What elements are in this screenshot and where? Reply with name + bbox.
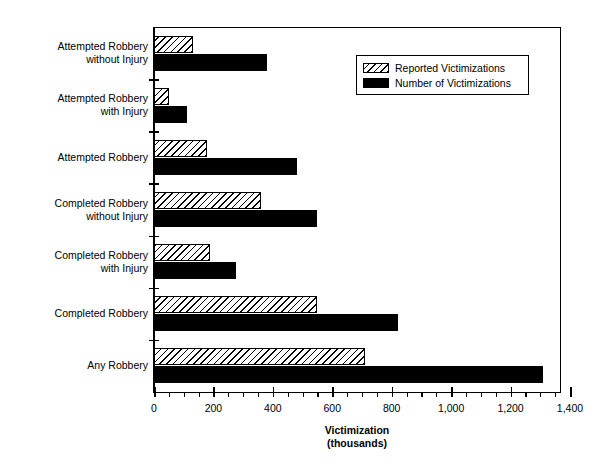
legend-label-number: Number of Victimizations	[395, 77, 511, 89]
x-tick-label-1200: 1,200	[481, 402, 541, 414]
x-minor-tick-450	[288, 392, 289, 397]
bar-reported-0	[154, 36, 193, 53]
x-minor-tick-1350	[555, 392, 556, 397]
chart-legend: Reported Victimizations Number of Victim…	[356, 55, 529, 95]
x-minor-tick-100	[184, 392, 185, 397]
x-minor-tick-50	[169, 392, 170, 397]
category-label-5: Completed Robbery	[8, 307, 148, 320]
x-tick-label-1000: 1,000	[421, 402, 481, 414]
bar-reported-1	[154, 88, 169, 105]
x-minor-tick-950	[436, 392, 437, 397]
x-tick-label-200: 200	[183, 402, 243, 414]
x-major-tick-800	[392, 387, 394, 397]
x-major-tick-200	[213, 387, 215, 397]
bar-number-4	[154, 262, 236, 279]
bar-reported-5	[154, 296, 317, 313]
category-label-6: Any Robbery	[8, 359, 148, 372]
legend-item-number: Number of Victimizations	[363, 75, 521, 90]
x-minor-tick-350	[258, 392, 259, 397]
x-major-tick-600	[332, 387, 334, 397]
category-label-1: Attempted Robbery with Injury	[8, 92, 148, 118]
category-label-3: Completed Robbery without Injury	[8, 197, 148, 223]
x-tick-label-800: 800	[362, 402, 422, 414]
x-minor-tick-1050	[466, 392, 467, 397]
y-axis-category-tick-5	[149, 288, 159, 290]
x-minor-tick-1250	[525, 392, 526, 397]
legend-swatch-hatched-icon	[363, 63, 389, 73]
x-minor-tick-550	[317, 392, 318, 397]
x-minor-tick-750	[377, 392, 378, 397]
x-major-tick-1200	[511, 387, 513, 397]
x-tick-label-600: 600	[302, 402, 362, 414]
bar-number-1	[154, 106, 187, 123]
y-axis-category-tick-6	[149, 340, 159, 342]
x-tick-label-400: 400	[243, 402, 303, 414]
category-label-4: Completed Robbery with Injury	[8, 249, 148, 275]
legend-item-reported: Reported Victimizations	[363, 60, 521, 75]
x-minor-tick-650	[347, 392, 348, 397]
y-axis-category-tick-3	[149, 183, 159, 185]
horizontal-bar-chart: Attempted Robbery without InjuryAttempte…	[0, 0, 603, 464]
x-major-tick-400	[273, 387, 275, 397]
y-axis-category-tick-2	[149, 131, 159, 133]
bar-number-2	[154, 158, 297, 175]
x-major-tick-1000	[451, 387, 453, 397]
legend-swatch-solid-icon	[363, 78, 389, 88]
x-minor-tick-300	[243, 392, 244, 397]
x-minor-tick-250	[228, 392, 229, 397]
bar-reported-4	[154, 244, 210, 261]
category-label-0: Attempted Robbery without Injury	[8, 40, 148, 66]
x-minor-tick-1100	[481, 392, 482, 397]
x-minor-tick-150	[199, 392, 200, 397]
legend-label-reported: Reported Victimizations	[395, 62, 505, 74]
x-minor-tick-850	[407, 392, 408, 397]
y-axis-category-tick-1	[149, 79, 159, 81]
x-tick-label-1400: 1,400	[540, 402, 600, 414]
bar-number-5	[154, 314, 398, 331]
y-axis-category-tick-4	[149, 236, 159, 238]
bar-number-6	[154, 366, 543, 383]
bar-number-3	[154, 210, 317, 227]
x-minor-tick-1300	[540, 392, 541, 397]
bar-reported-2	[154, 140, 207, 157]
x-minor-tick-500	[303, 392, 304, 397]
x-major-tick-0	[154, 387, 156, 397]
x-minor-tick-1150	[496, 392, 497, 397]
bar-number-0	[154, 54, 267, 71]
x-tick-label-0: 0	[124, 402, 184, 414]
x-minor-tick-700	[362, 392, 363, 397]
x-axis-title: Victimization (thousands)	[204, 424, 510, 450]
category-label-2: Attempted Robbery	[8, 151, 148, 164]
bar-reported-6	[154, 348, 365, 365]
bar-reported-3	[154, 192, 261, 209]
x-minor-tick-900	[421, 392, 422, 397]
x-major-tick-1400	[570, 387, 572, 397]
